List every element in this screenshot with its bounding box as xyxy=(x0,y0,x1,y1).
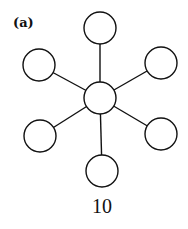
leaf-node xyxy=(84,12,116,44)
leaf-node xyxy=(24,120,56,152)
center-node xyxy=(84,82,116,114)
leaf-node xyxy=(145,118,177,150)
leaf-node xyxy=(86,155,118,187)
leaf-node xyxy=(23,49,55,81)
leaf-node xyxy=(145,47,177,79)
caption: 10 xyxy=(0,195,188,218)
